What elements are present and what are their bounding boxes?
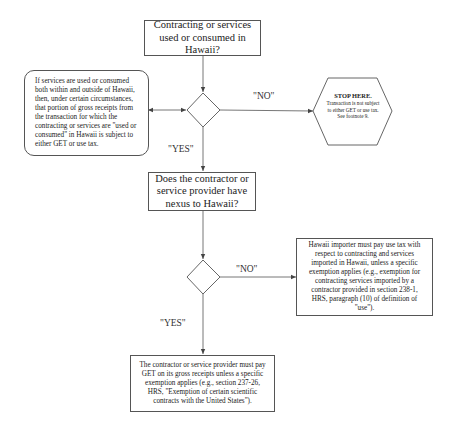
stop-here-text-block: STOP HERE. Transaction is not subject to…	[326, 92, 380, 120]
label-no-2: "NO"	[236, 264, 257, 274]
edge-d1-stop	[220, 110, 313, 111]
get-outcome-text: The contractor or service provider must …	[137, 361, 268, 406]
stop-here-text: Transaction is not subject to either GET…	[326, 100, 380, 120]
question-nexus-text: Does the contractor or service provider …	[153, 173, 251, 211]
mixed-use-note: If services are used or consumed both wi…	[24, 70, 149, 156]
use-tax-outcome: Hawaii importer must pay use tax with re…	[296, 238, 433, 316]
get-outcome: The contractor or service provider must …	[130, 355, 275, 412]
question-used-in-hawaii: Contracting or services used or consumed…	[144, 20, 261, 56]
label-yes-1: "YES"	[168, 144, 194, 154]
label-no-1: "NO"	[253, 91, 274, 101]
question-used-in-hawaii-text: Contracting or services used or consumed…	[149, 19, 256, 57]
mixed-use-note-text: If services are used or consumed both wi…	[35, 77, 142, 149]
decision-diamond-1	[187, 93, 220, 127]
label-yes-2: "YES"	[160, 318, 186, 328]
decision-diamond-2	[187, 260, 220, 294]
stop-here-title: STOP HERE.	[326, 92, 380, 100]
question-nexus: Does the contractor or service provider …	[148, 172, 256, 211]
use-tax-outcome-text: Hawaii importer must pay use tax with re…	[303, 241, 426, 313]
